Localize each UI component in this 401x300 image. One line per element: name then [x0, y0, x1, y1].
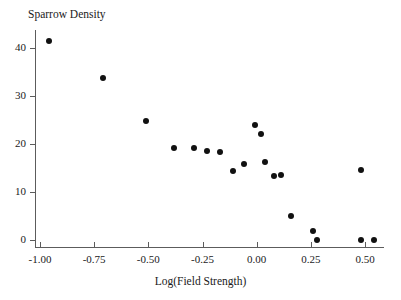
data-point — [271, 173, 277, 179]
y-tick-mark — [30, 240, 35, 241]
x-tick-label: -0.75 — [69, 254, 119, 265]
data-point — [314, 237, 320, 243]
x-tick-label: -1.00 — [15, 254, 65, 265]
data-point — [310, 228, 316, 234]
y-tick-label: 30 — [0, 90, 26, 101]
x-axis-line — [35, 247, 384, 248]
scatter-plot-figure: Sparrow Density Log(Field Strength) 0102… — [0, 0, 401, 300]
x-tick-mark — [203, 242, 204, 247]
data-point — [262, 159, 268, 165]
x-tick-label: -0.50 — [123, 254, 173, 265]
data-point — [143, 118, 149, 124]
x-tick-label: -0.25 — [178, 254, 228, 265]
data-point — [358, 167, 364, 173]
y-tick-mark — [30, 144, 35, 145]
y-tick-mark — [30, 192, 35, 193]
y-tick-label: 20 — [0, 138, 26, 149]
data-point — [191, 145, 197, 151]
y-axis-title: Sparrow Density — [28, 8, 106, 20]
x-tick-label: 0.50 — [340, 254, 390, 265]
data-point — [46, 38, 52, 44]
x-axis-title: Log(Field Strength) — [0, 275, 401, 287]
data-point — [204, 148, 210, 154]
x-tick-label: 0.00 — [232, 254, 282, 265]
y-tick-label: 10 — [0, 186, 26, 197]
data-point — [358, 237, 364, 243]
x-tick-mark — [257, 242, 258, 247]
y-tick-mark — [30, 96, 35, 97]
y-tick-mark — [30, 48, 35, 49]
x-tick-mark — [311, 242, 312, 247]
data-point — [230, 168, 236, 174]
data-point — [258, 131, 264, 137]
data-point — [278, 172, 284, 178]
y-tick-label: 40 — [0, 42, 26, 53]
x-tick-mark — [94, 242, 95, 247]
x-tick-mark — [148, 242, 149, 247]
data-point — [252, 122, 258, 128]
data-point — [217, 149, 223, 155]
data-point — [371, 237, 377, 243]
data-point — [100, 75, 106, 81]
y-tick-label: 0 — [0, 234, 26, 245]
x-tick-mark — [365, 242, 366, 247]
plot-area: Sparrow Density Log(Field Strength) 0102… — [0, 0, 401, 300]
y-axis-line — [35, 30, 36, 248]
x-tick-mark — [40, 242, 41, 247]
x-tick-label: 0.25 — [286, 254, 336, 265]
data-point — [288, 213, 294, 219]
data-point — [241, 161, 247, 167]
data-point — [171, 145, 177, 151]
